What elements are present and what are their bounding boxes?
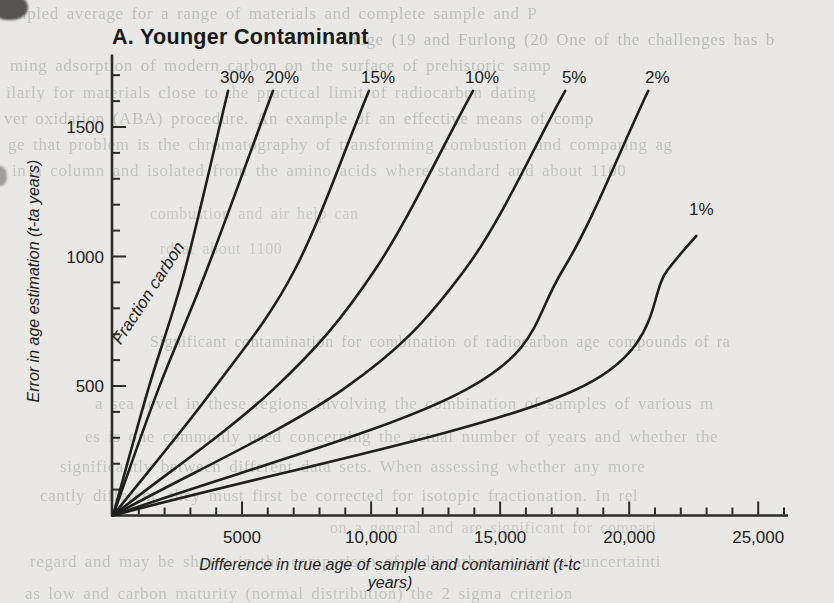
y-axis-title: Error in age estimation (t-ta years) [25, 81, 43, 481]
curve-label-1pct: 1% [689, 200, 714, 219]
x-tick-label: 15,000 [474, 528, 526, 547]
curve-label-15pct: 15% [361, 68, 395, 87]
curve-label-20pct: 20% [265, 68, 299, 87]
curve-5pct [113, 91, 565, 516]
fraction-carbon-label: Fraction carbon [108, 238, 188, 347]
contamination-error-plot: Fraction carbon 500010,00015,00020,00025… [0, 0, 834, 603]
x-tick-label: 20,000 [603, 528, 655, 547]
y-tick-label: 1000 [66, 248, 104, 267]
curve-label-2pct: 2% [645, 68, 670, 87]
x-tick-label: 25,000 [732, 528, 784, 547]
curve-label-5pct: 5% [562, 68, 587, 87]
y-tick-label: 500 [76, 377, 104, 396]
x-axis-title: Difference in true age of sample and con… [178, 556, 602, 592]
y-tick-label: 1500 [66, 118, 104, 137]
curve-label-10pct: 10% [465, 68, 499, 87]
curve-label-30pct: 30% [220, 68, 254, 87]
x-tick-label: 5000 [223, 528, 261, 547]
curve-10pct [113, 91, 473, 516]
x-tick-label: 10,000 [345, 528, 397, 547]
axis-lines [112, 55, 788, 516]
curve-1pct [113, 236, 696, 516]
generated-chart-elements: 500010,00015,00020,00025,000500100015003… [66, 68, 784, 548]
scanned-page: impled average for a range of materials … [0, 0, 834, 603]
